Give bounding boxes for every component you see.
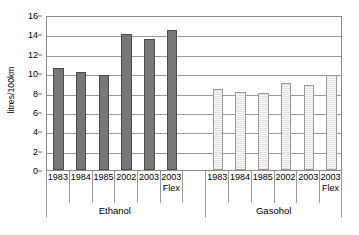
group-label-text: Gasohol — [256, 205, 291, 216]
y-axis-title-label: litres/100km — [6, 66, 16, 113]
bar-gasohol-2002 — [281, 83, 291, 170]
y-tick-mark — [38, 132, 42, 133]
y-tick-label-14: 14 — [28, 31, 38, 40]
y-tick-mark — [38, 74, 42, 75]
category-label-line: 1984 — [230, 172, 250, 183]
category-label-ethanol-2003-flex: 2003Flex — [160, 171, 183, 203]
y-tick-mark — [38, 16, 42, 17]
category-label-line: 1985 — [253, 172, 273, 183]
category-label-line: 2003 — [298, 172, 318, 183]
category-label-line: 2003 — [139, 172, 159, 183]
category-label-gasohol-1985: 1985 — [251, 171, 274, 203]
category-label-gasohol-1983: 1983 — [205, 171, 228, 203]
bar-ethanol-1984 — [76, 72, 86, 170]
category-label-ethanol-1983: 1983 — [46, 171, 69, 203]
category-label-ethanol-1985: 1985 — [92, 171, 115, 203]
category-label-line: Flex — [322, 183, 339, 194]
bar-gasohol-1985 — [258, 93, 268, 170]
category-label-line: 1983 — [48, 172, 68, 183]
bar-gasohol-2003 — [304, 85, 314, 170]
category-label-line: 2002 — [116, 172, 136, 183]
category-label-gasohol-1984: 1984 — [228, 171, 251, 203]
y-tick-label-12: 12 — [28, 50, 38, 59]
bar-gasohol-2003-flex — [326, 75, 336, 170]
y-tick-label-10: 10 — [28, 70, 38, 79]
y-tick-mark — [38, 93, 42, 94]
bars-layer — [47, 17, 341, 170]
bar-chart: litres/100km 0246810121416 1983198419852… — [0, 0, 359, 235]
y-tick-mark — [38, 54, 42, 55]
group-label-gasohol: Gasohol — [205, 203, 342, 217]
bar-gasohol-1983 — [213, 89, 223, 170]
y-tick-mark — [38, 151, 42, 152]
category-axis: 198319841985200220032003Flex198319841985… — [46, 171, 342, 217]
category-label-line: 2003 — [321, 172, 341, 183]
category-label-line: Flex — [163, 183, 180, 194]
plot-area — [46, 16, 342, 171]
category-label-line: 2003 — [161, 172, 181, 183]
category-label-line: 1984 — [71, 172, 91, 183]
bar-ethanol-2003-flex — [167, 30, 177, 170]
y-tick-mark — [38, 35, 42, 36]
category-label-gasohol-2002: 2002 — [274, 171, 297, 203]
category-label-gasohol-2003-flex: 2003Flex — [319, 171, 342, 203]
bar-ethanol-1985 — [99, 75, 109, 170]
y-axis-tick-labels: 0246810121416 — [20, 16, 42, 171]
y-tick-mark — [38, 171, 42, 172]
group-label-ethanol: Ethanol — [46, 203, 183, 217]
group-label-text: Ethanol — [99, 205, 131, 216]
y-axis-title: litres/100km — [2, 0, 20, 180]
category-label-ethanol-2002: 2002 — [114, 171, 137, 203]
bar-ethanol-2002 — [121, 34, 131, 170]
category-label-ethanol-1984: 1984 — [69, 171, 92, 203]
bar-ethanol-1983 — [53, 68, 63, 170]
bar-ethanol-2003 — [144, 39, 154, 170]
y-tick-mark — [38, 112, 42, 113]
category-label-line: 1983 — [207, 172, 227, 183]
category-label-line: 2002 — [276, 172, 296, 183]
bar-gasohol-1984 — [235, 92, 245, 170]
category-label-ethanol-2003: 2003 — [137, 171, 160, 203]
category-label-line: 1985 — [93, 172, 113, 183]
category-label-gasohol-2003: 2003 — [296, 171, 319, 203]
y-tick-label-16: 16 — [28, 12, 38, 21]
